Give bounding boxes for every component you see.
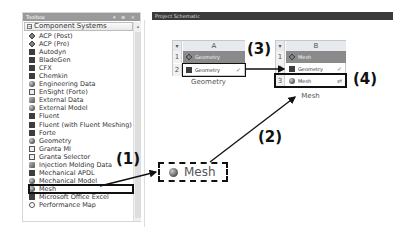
annotation-2: (2) [258,128,282,146]
annotation-1: (1) [116,150,140,168]
annotation-arrows [0,0,404,227]
annotation-4: (4) [353,70,377,88]
annotation-3: (3) [247,40,271,58]
